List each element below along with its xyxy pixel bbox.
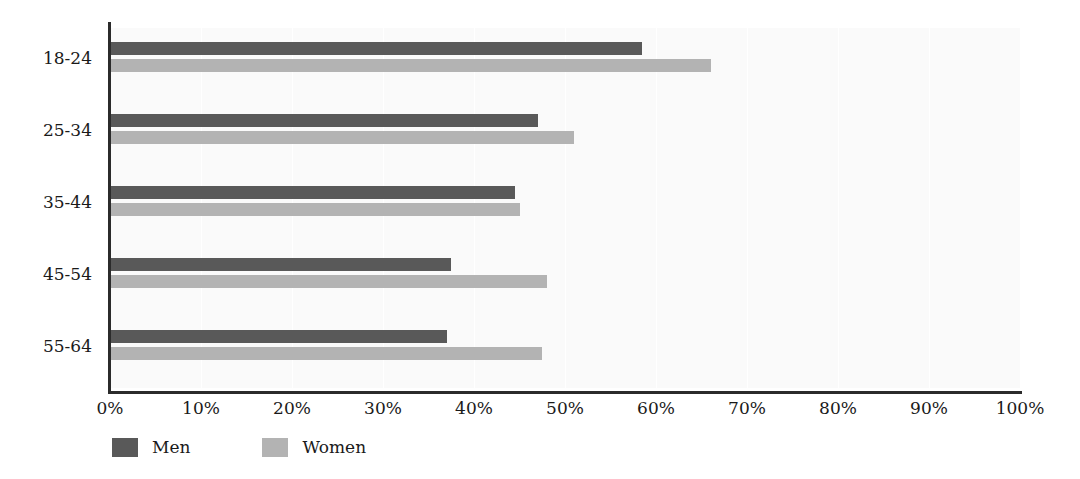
x-axis-tick-label: 0%	[75, 398, 145, 418]
chart-legend: MenWomen	[112, 437, 366, 457]
x-axis-tick-label: 10%	[166, 398, 236, 418]
x-axis-tick-label: 90%	[894, 398, 964, 418]
bar-men-35-44	[110, 186, 515, 199]
x-axis-tick-label: 60%	[621, 398, 691, 418]
x-axis-tick-label: 100%	[985, 398, 1055, 418]
y-axis-category-label: 25-34	[0, 120, 92, 140]
x-axis-tick-label: 80%	[803, 398, 873, 418]
y-axis-category-label: 45-54	[0, 264, 92, 284]
x-axis-tick-label: 40%	[439, 398, 509, 418]
y-axis-category-labels: 18-2425-3435-4445-5455-64	[0, 28, 100, 388]
legend-swatch-icon	[262, 438, 288, 457]
legend-label: Men	[152, 437, 190, 457]
gridline	[565, 28, 566, 388]
x-axis-tick-label: 20%	[257, 398, 327, 418]
plot-area	[110, 28, 1020, 388]
y-axis-category-label: 55-64	[0, 336, 92, 356]
gridline	[1020, 28, 1021, 388]
y-axis-category-label: 18-24	[0, 48, 92, 68]
x-axis-tick-label: 50%	[530, 398, 600, 418]
bar-women-45-54	[110, 275, 547, 288]
gridline	[929, 28, 930, 388]
x-axis-line	[108, 391, 1022, 394]
bar-men-45-54	[110, 258, 451, 271]
bar-women-25-34	[110, 131, 574, 144]
bar-women-35-44	[110, 203, 520, 216]
bar-women-55-64	[110, 347, 542, 360]
legend-item-women[interactable]: Women	[262, 437, 366, 457]
y-axis-category-label: 35-44	[0, 192, 92, 212]
x-axis-tick-label: 70%	[712, 398, 782, 418]
bar-men-55-64	[110, 330, 447, 343]
gridline	[656, 28, 657, 388]
x-axis-tick-label: 30%	[348, 398, 418, 418]
bar-men-18-24	[110, 42, 642, 55]
legend-label: Women	[302, 437, 366, 457]
bar-women-18-24	[110, 59, 711, 72]
y-axis-line	[108, 22, 111, 394]
bar-men-25-34	[110, 114, 538, 127]
gridline	[747, 28, 748, 388]
legend-item-men[interactable]: Men	[112, 437, 190, 457]
legend-swatch-icon	[112, 438, 138, 457]
bar-chart: 18-2425-3435-4445-5455-64 0%10%20%30%40%…	[0, 0, 1080, 479]
gridline	[838, 28, 839, 388]
